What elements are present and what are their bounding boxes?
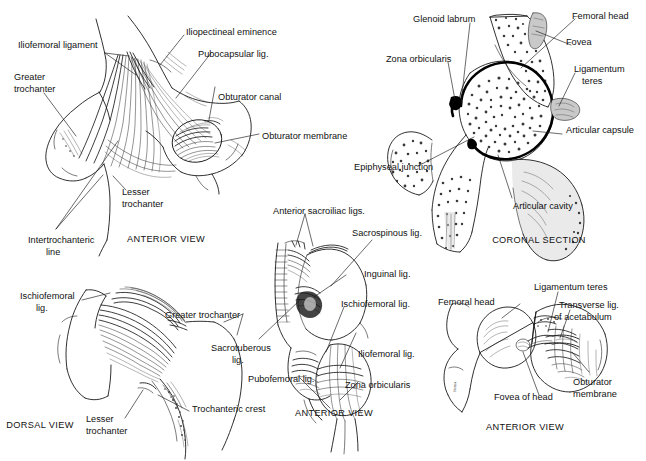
label-iliofemoral-lig-pelvis: Iliofemoral lig. bbox=[358, 349, 415, 359]
label-epiphyseal-junction: Epiphyseal junction bbox=[354, 162, 433, 172]
label-femoral-head-open: Femoral head bbox=[438, 297, 495, 307]
label-transverse-lig: Transverse lig. bbox=[559, 300, 619, 310]
label-trochanteric-crest: Trochanteric crest bbox=[192, 404, 266, 414]
label-lesser-trochanter-dorsal-line2: trochanter bbox=[86, 426, 127, 436]
label-inguinal-lig: Inguinal lig. bbox=[364, 269, 410, 279]
label-greater-trochanter-dorsal: Greater trochanter bbox=[165, 310, 240, 320]
label-ischiofemoral-lig-dorsal-line2: lig. bbox=[36, 303, 48, 313]
caption-anterior-view-1: ANTERIOR VIEW bbox=[127, 234, 205, 244]
label-lesser-trochanter-dorsal: Lesser bbox=[86, 414, 114, 424]
caption-anterior-view-3: ANTERIOR VIEW bbox=[486, 422, 564, 432]
label-anterior-sacroiliac-ligs: Anterior sacroiliac ligs. bbox=[273, 206, 365, 216]
caption-dorsal-view: DORSAL VIEW bbox=[6, 420, 73, 430]
label-zona-orbicularis-pelvis: Zona orbicularis bbox=[345, 380, 411, 390]
label-intertrochanteric-line: Intertrochanteric bbox=[28, 235, 95, 245]
label-femoral-head: Femoral head bbox=[572, 11, 629, 21]
label-obturator-membrane-open: Obturator bbox=[573, 377, 612, 387]
label-pubocapsular-lig: Pubocapsular lig. bbox=[198, 49, 268, 59]
label-lesser-trochanter-line2: trochanter bbox=[122, 199, 163, 209]
label-obturator-canal: Obturator canal bbox=[218, 92, 281, 102]
label-ischiofemoral-lig-pelvis: Ischiofemoral lig. bbox=[341, 299, 410, 309]
label-ischiofemoral-lig-dorsal: Ischiofemoral bbox=[20, 291, 75, 301]
label-ligamentum-teres-coronal: Ligamentum bbox=[574, 64, 625, 74]
label-sacrospinous-lig: Sacrospinous lig. bbox=[352, 228, 422, 238]
label-ligamentum-teres-open: Ligamentum teres bbox=[534, 282, 608, 292]
label-lesser-trochanter: Lesser bbox=[122, 187, 150, 197]
label-zona-orbicularis-coronal: Zona orbicularis bbox=[386, 54, 452, 64]
label-iliofemoral-ligament: Iliofemoral ligament bbox=[18, 40, 98, 50]
label-articular-cavity: Articular cavity bbox=[513, 201, 573, 211]
label-sacrotuberous-lig-line2: lig. bbox=[232, 355, 244, 365]
label-fovea: Fovea bbox=[566, 37, 592, 47]
label-ligamentum-teres-coronal-line2: teres bbox=[582, 76, 603, 86]
label-iliopectineal-eminence: Iliopectineal eminence bbox=[186, 27, 277, 37]
label-glenoid-labrum: Glenoid labrum bbox=[413, 14, 476, 24]
anatomy-plate: Iliofemoral ligament Greater trochanter … bbox=[0, 0, 646, 461]
label-transverse-lig-line2: of acetabulum bbox=[554, 312, 612, 322]
label-pubofemoral-lig: Pubofemoral lig. bbox=[248, 374, 314, 384]
label-fovea-of-head: Fovea of head bbox=[494, 392, 553, 402]
artist-signature: Netter bbox=[452, 381, 457, 392]
label-intertrochanteric-line-line2: line bbox=[46, 247, 60, 257]
label-greater-trochanter-line2: trochanter bbox=[14, 84, 55, 94]
label-obturator-membrane-open-line2: membrane bbox=[573, 389, 617, 399]
label-greater-trochanter: Greater bbox=[14, 72, 45, 82]
anatomy-plate-svg: Iliofemoral ligament Greater trochanter … bbox=[0, 0, 646, 461]
label-sacrotuberous-lig: Sacrotuberous bbox=[211, 343, 271, 353]
caption-anterior-view-2: ANTERIOR VIEW bbox=[295, 408, 373, 418]
label-obturator-membrane: Obturator membrane bbox=[262, 131, 347, 141]
label-articular-capsule: Articular capsule bbox=[566, 125, 634, 135]
caption-coronal-section: CORONAL SECTION bbox=[492, 235, 586, 245]
